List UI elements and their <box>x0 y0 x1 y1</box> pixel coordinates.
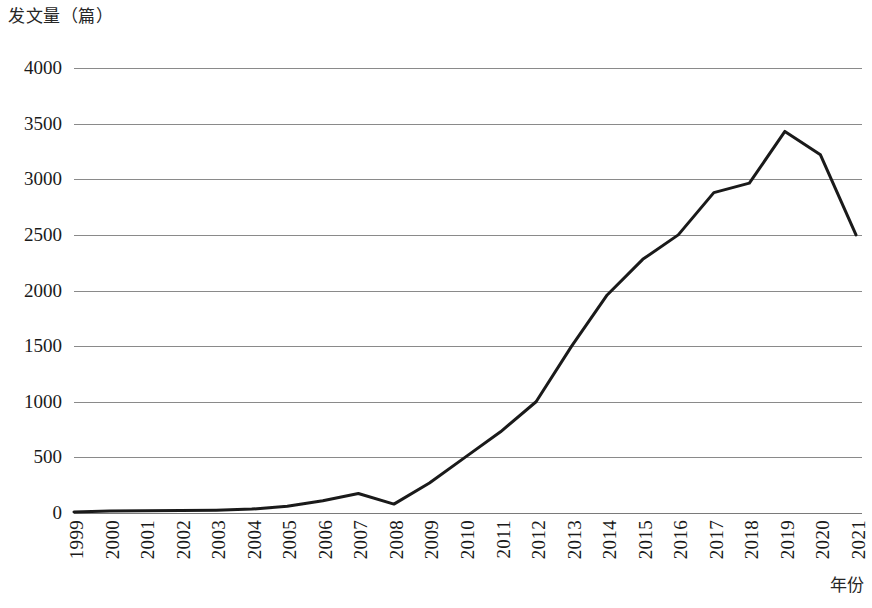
x-tick-label-2012: 2012 <box>529 520 548 559</box>
series-line-fawenliang <box>74 131 856 511</box>
y-tick-label-0: 0 <box>0 503 62 522</box>
x-tick-label-2019: 2019 <box>778 520 797 559</box>
x-tick-label-2002: 2002 <box>174 520 193 559</box>
x-tick-label-2007: 2007 <box>351 520 370 559</box>
x-tick-label-2013: 2013 <box>565 520 584 559</box>
x-tick-label-2005: 2005 <box>280 520 299 559</box>
y-tick-label-1500: 1500 <box>0 336 62 355</box>
x-tick-label-2001: 2001 <box>138 520 157 559</box>
y-tick-label-500: 500 <box>0 447 62 466</box>
line-chart: 发文量（篇） 05001000150020002500300035004000 … <box>0 0 872 608</box>
y-axis-title: 发文量（篇） <box>8 6 113 28</box>
x-tick-label-2009: 2009 <box>422 520 441 559</box>
x-tick-label-2000: 2000 <box>103 520 122 559</box>
y-tick-label-3500: 3500 <box>0 114 62 133</box>
x-tick-label-2003: 2003 <box>209 520 228 559</box>
series-line-group <box>74 68 862 513</box>
y-tick-label-1000: 1000 <box>0 392 62 411</box>
x-tick-label-2008: 2008 <box>387 520 406 559</box>
y-tick-label-2000: 2000 <box>0 281 62 300</box>
x-tick-label-2018: 2018 <box>742 520 761 559</box>
y-tick-label-3000: 3000 <box>0 169 62 188</box>
x-tick-label-2020: 2020 <box>813 520 832 559</box>
x-tick-label-2021: 2021 <box>849 520 868 559</box>
x-tick-label-2014: 2014 <box>600 520 619 559</box>
x-tick-label-2011: 2011 <box>494 520 513 559</box>
plot-area <box>74 68 862 513</box>
x-tick-label-2004: 2004 <box>245 520 264 559</box>
x-tick-label-2016: 2016 <box>671 520 690 559</box>
gridline-0 <box>74 513 862 514</box>
x-tick-label-1999: 1999 <box>67 520 86 559</box>
x-tick-label-2006: 2006 <box>316 520 335 559</box>
x-axis-title: 年份 <box>830 576 864 596</box>
y-tick-label-4000: 4000 <box>0 58 62 77</box>
x-tick-label-2010: 2010 <box>458 520 477 559</box>
x-tick-label-2015: 2015 <box>636 520 655 559</box>
y-tick-label-2500: 2500 <box>0 225 62 244</box>
x-tick-label-2017: 2017 <box>707 520 726 559</box>
